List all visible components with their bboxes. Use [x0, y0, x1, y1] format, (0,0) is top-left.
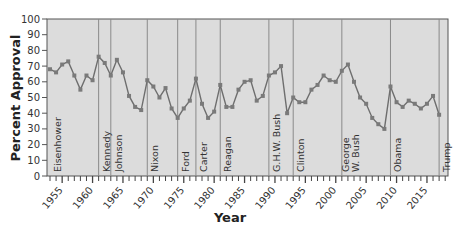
- data-point: [230, 105, 234, 109]
- president-label: G.H.W. Bush: [271, 114, 282, 172]
- data-point: [291, 96, 295, 100]
- x-axis: 1955196019651970197519801985199019952000…: [40, 176, 445, 211]
- data-point: [255, 99, 259, 103]
- data-point: [370, 116, 374, 120]
- data-point: [48, 67, 52, 71]
- x-tick-label: 1980: [192, 185, 217, 212]
- data-point: [401, 105, 405, 109]
- data-point: [176, 116, 180, 120]
- data-point: [388, 85, 392, 89]
- data-point: [358, 96, 362, 100]
- y-tick-label: 100: [21, 14, 40, 25]
- y-tick-label: 10: [27, 155, 40, 166]
- data-point: [72, 74, 76, 78]
- data-point: [303, 100, 307, 104]
- y-axis: 0102030405060708090100: [21, 14, 47, 182]
- president-label: Reagan: [222, 136, 233, 172]
- data-point: [249, 78, 253, 82]
- data-point: [78, 88, 82, 92]
- data-point: [127, 94, 131, 98]
- president-label: Kennedy: [101, 130, 112, 172]
- x-tick-label: 1985: [222, 185, 247, 212]
- data-point: [66, 59, 70, 63]
- data-point: [376, 122, 380, 126]
- x-axis-title: Year: [213, 210, 247, 225]
- y-axis-title: Percent Approval: [8, 35, 23, 162]
- x-tick-label: 1995: [283, 185, 308, 212]
- data-point: [133, 105, 137, 109]
- president-label: Nixon: [149, 145, 160, 172]
- data-point: [151, 85, 155, 89]
- y-tick-label: 50: [27, 92, 40, 103]
- data-point: [54, 70, 58, 74]
- data-point: [194, 77, 198, 81]
- data-point: [121, 70, 125, 74]
- data-point: [243, 80, 247, 84]
- x-tick-label: 1965: [101, 185, 126, 212]
- data-point: [334, 80, 338, 84]
- data-point: [103, 61, 107, 65]
- data-point: [309, 88, 313, 92]
- president-label: Clinton: [295, 139, 306, 173]
- data-point: [224, 105, 228, 109]
- data-point: [413, 102, 417, 106]
- y-tick-label: 60: [27, 76, 40, 87]
- y-tick-label: 40: [27, 108, 40, 119]
- data-point: [97, 55, 101, 59]
- data-point: [437, 113, 441, 117]
- data-point: [297, 100, 301, 104]
- x-tick-label: 1975: [162, 185, 187, 212]
- president-label: Trump: [441, 142, 452, 173]
- data-point: [328, 78, 332, 82]
- data-point: [188, 99, 192, 103]
- data-point: [279, 64, 283, 68]
- data-point: [157, 96, 161, 100]
- president-label: W. Bush: [350, 134, 361, 172]
- data-point: [316, 83, 320, 87]
- data-point: [236, 88, 240, 92]
- data-point: [164, 86, 168, 90]
- president-label: Johnson: [113, 135, 124, 173]
- president-label: Obama: [392, 138, 403, 172]
- y-tick-label: 20: [27, 139, 40, 150]
- data-point: [200, 102, 204, 106]
- data-point: [352, 80, 356, 84]
- x-tick-label: 1955: [40, 185, 65, 212]
- data-point: [364, 102, 368, 106]
- data-point: [340, 69, 344, 73]
- x-tick-label: 2000: [314, 185, 339, 212]
- y-tick-label: 70: [27, 61, 40, 72]
- x-tick-label: 2015: [405, 185, 430, 212]
- data-point: [84, 74, 88, 78]
- data-point: [382, 127, 386, 131]
- data-point: [212, 110, 216, 114]
- data-point: [91, 78, 95, 82]
- data-point: [182, 106, 186, 110]
- data-point: [273, 70, 277, 74]
- y-tick-label: 80: [27, 45, 40, 56]
- x-tick-label: 1970: [131, 185, 156, 212]
- data-point: [322, 74, 326, 78]
- data-point: [395, 100, 399, 104]
- data-point: [218, 83, 222, 87]
- data-point: [346, 63, 350, 67]
- y-tick-label: 30: [27, 123, 40, 134]
- data-point: [170, 106, 174, 110]
- president-label: Ford: [180, 151, 191, 172]
- data-point: [285, 111, 289, 115]
- data-point: [267, 74, 271, 78]
- data-point: [139, 108, 143, 112]
- data-point: [115, 58, 119, 62]
- x-tick-label: 1960: [70, 185, 95, 212]
- x-tick-label: 2005: [344, 185, 369, 212]
- president-label: Carter: [198, 142, 209, 172]
- president-label: Eisenhower: [52, 117, 63, 172]
- data-point: [261, 94, 265, 98]
- data-point: [206, 116, 210, 120]
- data-point: [419, 106, 423, 110]
- y-tick-label: 90: [27, 29, 40, 40]
- approval-chart: EisenhowerKennedyJohnsonNixonFordCarterR…: [0, 0, 460, 234]
- data-point: [145, 78, 149, 82]
- data-point: [60, 63, 64, 67]
- data-point: [109, 74, 113, 78]
